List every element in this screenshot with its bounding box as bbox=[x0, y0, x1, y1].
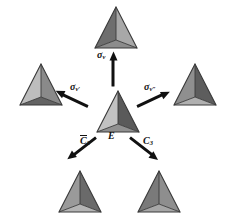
label-c3-bar-sub: 3 bbox=[87, 139, 90, 146]
tetrahedron-right bbox=[167, 61, 223, 109]
symmetry-operation-diagram: σv σv′ σv″ C3 C3 E bbox=[0, 0, 226, 219]
label-c3-main: C bbox=[143, 135, 150, 146]
label-c3-bar-main: C bbox=[80, 136, 87, 146]
tetrahedron-center bbox=[90, 88, 146, 136]
label-sigma-v-double-prime-sub: v″ bbox=[149, 85, 155, 92]
tetrahedron-top-svg bbox=[88, 4, 144, 52]
label-sigma-v: σv bbox=[97, 50, 105, 61]
tetrahedron-left-svg bbox=[13, 61, 69, 109]
label-sigma-v-prime-sub: v′ bbox=[75, 85, 80, 92]
label-identity-E: E bbox=[108, 131, 115, 141]
arrow-shaft bbox=[112, 60, 115, 87]
tetrahedron-bottom-right-svg bbox=[131, 168, 187, 216]
label-c3-bar: C3 bbox=[80, 136, 90, 147]
label-sigma-v-double-prime: σv″ bbox=[144, 82, 156, 93]
tetrahedron-center-svg bbox=[90, 88, 146, 136]
label-identity-E-main: E bbox=[108, 130, 115, 141]
tetrahedron-bottom-right bbox=[131, 168, 187, 216]
tetrahedron-bottom-left-svg bbox=[52, 168, 108, 216]
label-sigma-v-sub: v bbox=[102, 53, 105, 60]
tetrahedron-right-svg bbox=[167, 61, 223, 109]
arrow-head bbox=[149, 151, 161, 163]
arrow-sigma-v bbox=[112, 52, 115, 87]
tetrahedron-left bbox=[13, 61, 69, 109]
arrow-head bbox=[109, 52, 117, 61]
label-c3: C3 bbox=[143, 136, 153, 147]
tetrahedron-bottom-left bbox=[52, 168, 108, 216]
label-c3-sub: 3 bbox=[150, 139, 153, 146]
tetrahedron-top bbox=[88, 4, 144, 52]
label-sigma-v-prime: σv′ bbox=[70, 82, 80, 93]
